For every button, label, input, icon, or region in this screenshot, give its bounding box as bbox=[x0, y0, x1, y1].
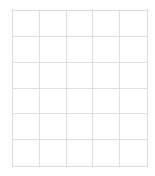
grid-cell bbox=[40, 11, 67, 37]
grid-cell bbox=[120, 11, 147, 37]
grid-cell bbox=[67, 11, 94, 37]
grid-cell bbox=[13, 140, 40, 166]
grid-cell bbox=[93, 89, 120, 115]
grid-cell bbox=[40, 114, 67, 140]
grid-cell bbox=[120, 63, 147, 89]
grid-cell bbox=[120, 89, 147, 115]
grid-cell bbox=[67, 63, 94, 89]
grid-cell bbox=[67, 114, 94, 140]
grid-cell bbox=[67, 37, 94, 63]
grid-cell bbox=[13, 11, 40, 37]
grid-cell bbox=[67, 140, 94, 166]
grid-cell bbox=[120, 37, 147, 63]
grid-cell bbox=[93, 37, 120, 63]
grid-cell bbox=[67, 89, 94, 115]
grid-cell bbox=[120, 114, 147, 140]
grid-cell bbox=[13, 114, 40, 140]
grid-cell bbox=[93, 140, 120, 166]
grid-cell bbox=[40, 140, 67, 166]
grid-cell bbox=[93, 63, 120, 89]
grid-cell bbox=[13, 89, 40, 115]
grid-cell bbox=[93, 11, 120, 37]
empty-grid bbox=[12, 10, 148, 167]
grid-cell bbox=[93, 114, 120, 140]
grid-cell bbox=[13, 37, 40, 63]
grid-cell bbox=[40, 37, 67, 63]
grid-cell bbox=[120, 140, 147, 166]
grid-cell bbox=[13, 63, 40, 89]
grid-cell bbox=[40, 89, 67, 115]
grid-cell bbox=[40, 63, 67, 89]
